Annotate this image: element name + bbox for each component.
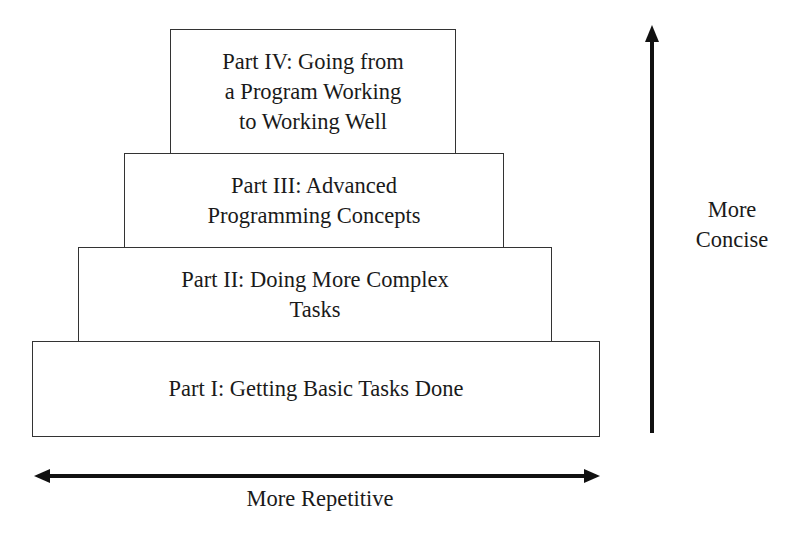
axis-arrows: [0, 0, 793, 535]
vertical-axis-label: More Concise: [672, 195, 792, 255]
horizontal-axis-label: More Repetitive: [180, 484, 460, 514]
vertical-arrow-icon: [645, 25, 659, 433]
horizontal-double-arrow-icon: [34, 469, 600, 483]
